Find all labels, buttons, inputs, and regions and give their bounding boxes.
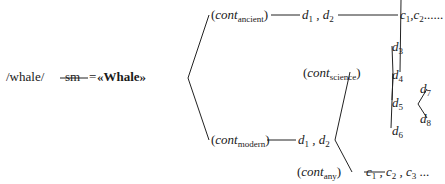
cont-text: cont [301, 164, 323, 179]
cont-text: cont [215, 7, 237, 22]
ellipsis: ...... [424, 7, 444, 22]
word-text: /whale/ [6, 69, 44, 84]
d-sub: 4 [399, 74, 404, 84]
comma: , [316, 7, 319, 22]
cont-text: cont [215, 132, 237, 147]
paren: ) [265, 132, 269, 147]
any-c-list: c1 , c2 , c3 ... [366, 165, 429, 181]
leaf-d5: d5 [392, 96, 403, 112]
cont-science: (contscience) [303, 66, 361, 82]
d-sub: 2 [329, 14, 334, 24]
c-sub: 2 [392, 171, 397, 181]
sm-label: sm [65, 70, 80, 83]
comma: , [400, 164, 403, 179]
c-sub: 3 [412, 171, 417, 181]
root-word: /whale/ [6, 70, 44, 83]
ancient-c-list: c1,c2...... [400, 8, 443, 24]
eq-text: = [89, 69, 96, 84]
concept-label: «Whale» [97, 70, 146, 83]
paren: ) [356, 65, 360, 80]
equals-sign: = [89, 70, 96, 83]
cont-text: cont [307, 65, 329, 80]
d-sub: 1 [309, 14, 314, 24]
d-sub: 7 [427, 88, 432, 98]
paren: ) [264, 7, 268, 22]
comma: , [312, 132, 315, 147]
leaf-d4: d4 [392, 68, 403, 84]
cont-subscript: science [330, 72, 356, 82]
cont-subscript: modern [238, 139, 266, 149]
d-sub: 2 [325, 139, 330, 149]
cont-ancient: (contancient) [211, 8, 268, 24]
leaf-d8: d8 [420, 112, 431, 128]
d-sub: 6 [399, 130, 404, 140]
paren: ) [337, 164, 341, 179]
ancient-d-list: d1 , d2 [302, 8, 334, 24]
cont-subscript: ancient [238, 14, 264, 24]
c-sub: 1 [372, 171, 377, 181]
concept-text: «Whale» [97, 69, 146, 84]
d-sub: 8 [427, 118, 432, 128]
tree-connectors [0, 0, 445, 184]
d-sub: 1 [305, 139, 310, 149]
d-sub: 3 [399, 46, 404, 56]
modern-d-list: d1 , d2 [298, 133, 330, 149]
d-sub: 5 [399, 102, 404, 112]
ellipsis: ... [420, 164, 430, 179]
leaf-d6: d6 [392, 124, 403, 140]
cont-modern: (contmodern) [211, 133, 270, 149]
cont-subscript: any [324, 171, 337, 181]
leaf-d7: d7 [420, 82, 431, 98]
sm-text: sm [65, 69, 80, 84]
comma: , [380, 164, 383, 179]
cont-any: (contany) [297, 165, 341, 181]
leaf-d3: d3 [392, 40, 403, 56]
